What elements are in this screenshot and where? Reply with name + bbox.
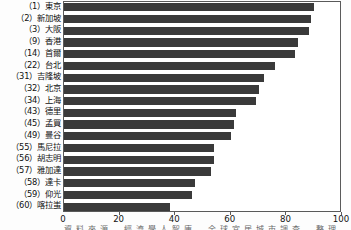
bar	[64, 132, 231, 140]
bar-row	[64, 154, 340, 166]
category-label: （31）吉隆坡	[0, 71, 63, 83]
bar-row	[64, 190, 340, 202]
bar	[64, 120, 234, 128]
bar-row	[64, 166, 340, 178]
caption-text: 資料來源 經濟學人智庫 全球宜居城市調查 整理 製表	[0, 225, 351, 230]
bar-row	[64, 14, 340, 26]
x-axis-line	[63, 211, 341, 212]
bar	[64, 156, 214, 164]
bar-row	[64, 96, 340, 108]
bar	[64, 15, 311, 23]
category-label: （22）台北	[0, 60, 63, 72]
bar	[64, 62, 275, 70]
bar	[64, 3, 314, 11]
category-label: （45）孟買	[0, 118, 63, 130]
category-label: （14）首爾	[0, 48, 63, 60]
bar	[64, 179, 195, 187]
bar-row	[64, 143, 340, 155]
caption-strip: 資料來源 經濟學人智庫 全球宜居城市調查 整理 製表	[0, 225, 351, 230]
category-label: （55）馬尼拉	[0, 142, 63, 154]
bar	[64, 203, 170, 211]
bar	[64, 191, 192, 199]
category-label: （57）雅加達	[0, 165, 63, 177]
x-tick-label: 20	[113, 214, 124, 224]
bar-row	[64, 131, 340, 143]
category-label: （59）仰光	[0, 189, 63, 201]
bar-row	[64, 178, 340, 190]
category-label: （60）喀拉蚩	[0, 200, 63, 212]
category-label: （58）達卡	[0, 177, 63, 189]
x-tick-label: 80	[280, 214, 291, 224]
x-tick-label: 0	[60, 214, 65, 224]
x-tick-label: 100	[333, 214, 349, 224]
x-tick-label: 40	[169, 214, 180, 224]
bar-row	[64, 2, 340, 14]
bar-row	[64, 72, 340, 84]
bar-row	[64, 37, 340, 49]
bar-row	[64, 25, 340, 37]
x-tick-label: 60	[224, 214, 235, 224]
category-label: （9）香港	[0, 36, 63, 48]
bar-row	[64, 107, 340, 119]
bar	[64, 167, 211, 175]
plot-area	[63, 1, 341, 212]
bar	[64, 144, 214, 152]
category-label: （32）北京	[0, 83, 63, 95]
bars-layer	[64, 2, 340, 211]
bar	[64, 27, 309, 35]
bar	[64, 109, 236, 117]
category-label: （3）大阪	[0, 24, 63, 36]
bar-chart: （1）東京（2）新加坡（3）大阪（9）香港（14）首爾（22）台北（31）吉隆坡…	[0, 0, 351, 230]
category-label: （43）德里	[0, 106, 63, 118]
bar-row	[64, 84, 340, 96]
category-label: （1）東京	[0, 1, 63, 13]
bar	[64, 50, 295, 58]
bar-row	[64, 61, 340, 73]
category-label: （34）上海	[0, 95, 63, 107]
category-label: （49）曼谷	[0, 130, 63, 142]
bar	[64, 38, 298, 46]
bar	[64, 74, 264, 82]
category-label: （2）新加坡	[0, 13, 63, 25]
bar-row	[64, 119, 340, 131]
bar	[64, 97, 256, 105]
bar-row	[64, 49, 340, 61]
bar	[64, 85, 259, 93]
category-label: （56）胡志明	[0, 153, 63, 165]
category-axis-labels: （1）東京（2）新加坡（3）大阪（9）香港（14）首爾（22）台北（31）吉隆坡…	[0, 0, 63, 212]
